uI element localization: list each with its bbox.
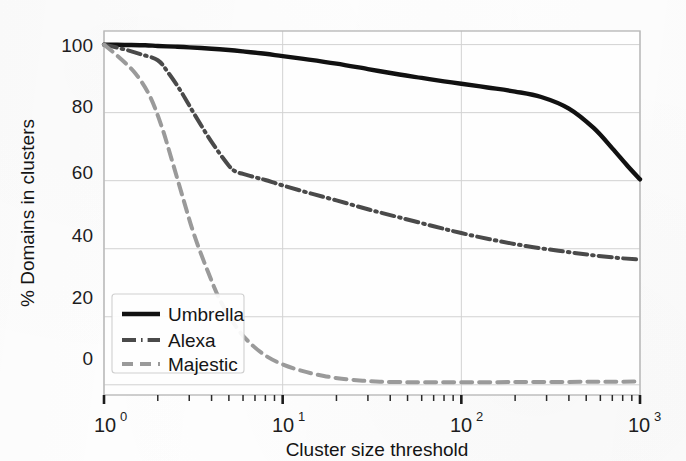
legend-label-umbrella: Umbrella	[168, 304, 244, 325]
x-tick-base-0: 10	[94, 414, 116, 436]
x-minor-ticks	[158, 395, 632, 401]
x-tick-labels: 10 0 10 1 10 2 10 3	[94, 409, 661, 436]
y-tick-label-60: 60	[72, 162, 93, 183]
legend-label-alexa: Alexa	[168, 330, 216, 351]
y-tick-label-80: 80	[72, 96, 93, 117]
chart-legend: Umbrella Alexa Majestic	[112, 294, 244, 375]
x-tick-label-1e1: 10 1	[272, 409, 305, 436]
x-tick-label-1e2: 10 2	[450, 409, 483, 436]
y-tick-label-20: 20	[72, 287, 93, 308]
x-tick-exp-2: 2	[476, 409, 483, 424]
x-tick-base-3: 10	[628, 414, 650, 436]
x-major-ticks	[104, 395, 640, 404]
x-axis-title: Cluster size threshold	[286, 439, 469, 460]
x-tick-label-1e3: 10 3	[628, 409, 661, 436]
line-chart: 100 80 60 40 20 0 10 0 10 1 10 2 10 3	[0, 0, 686, 461]
legend-label-majestic: Majestic	[168, 354, 238, 375]
x-tick-label-1e0: 10 0	[94, 409, 127, 436]
x-tick-exp-0: 0	[120, 409, 127, 424]
x-tick-exp-3: 3	[654, 409, 661, 424]
y-tick-label-0: 0	[82, 348, 93, 369]
y-tick-labels: 100 80 60 40 20 0	[61, 35, 93, 369]
x-tick-base-2: 10	[450, 414, 472, 436]
x-tick-base-1: 10	[272, 414, 294, 436]
y-tick-label-100: 100	[61, 35, 93, 56]
x-tick-exp-1: 1	[298, 409, 305, 424]
y-tick-label-40: 40	[72, 225, 93, 246]
y-axis-title: % Domains in clusters	[17, 119, 38, 307]
figure-canvas: 100 80 60 40 20 0 10 0 10 1 10 2 10 3	[0, 0, 686, 461]
